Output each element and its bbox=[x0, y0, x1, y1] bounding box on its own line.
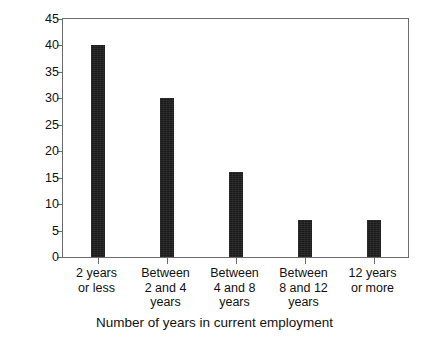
x-axis-tick-label: 12 yearsor more bbox=[331, 266, 415, 295]
y-axis-tick-label: 5 bbox=[52, 224, 59, 238]
y-axis-tick-label: 40 bbox=[45, 38, 59, 52]
bar bbox=[229, 172, 243, 257]
x-axis-tick-label-line: 12 years bbox=[331, 266, 415, 281]
y-axis-tick-label: 30 bbox=[45, 91, 59, 105]
bar-chart-figure: Number of respondents 051015202530354045… bbox=[0, 0, 429, 343]
bar bbox=[160, 98, 174, 257]
y-axis-tick-label: 0 bbox=[52, 250, 59, 264]
bar bbox=[367, 220, 381, 257]
x-axis-title: Number of years in current employment bbox=[0, 315, 429, 330]
bar bbox=[298, 220, 312, 257]
y-axis-tick-label: 25 bbox=[45, 118, 59, 132]
x-axis-tick-label-line: or more bbox=[331, 281, 415, 296]
y-axis-tick-label: 45 bbox=[45, 12, 59, 26]
x-axis-tick-mark bbox=[98, 257, 99, 264]
y-axis-tick-label: 35 bbox=[45, 65, 59, 79]
x-axis-tick-mark bbox=[374, 257, 375, 264]
y-axis-tick-label: 15 bbox=[45, 171, 59, 185]
x-axis-tick-mark bbox=[236, 257, 237, 264]
y-axis-tick-label: 20 bbox=[45, 144, 59, 158]
plot-frame: 051015202530354045 bbox=[62, 18, 409, 258]
x-axis-tick-mark bbox=[167, 257, 168, 264]
x-axis-tick-label-line: years bbox=[262, 295, 346, 310]
y-axis-tick-label: 10 bbox=[45, 197, 59, 211]
plot-area bbox=[63, 19, 408, 257]
x-axis-tick-mark bbox=[305, 257, 306, 264]
bar bbox=[91, 45, 105, 257]
